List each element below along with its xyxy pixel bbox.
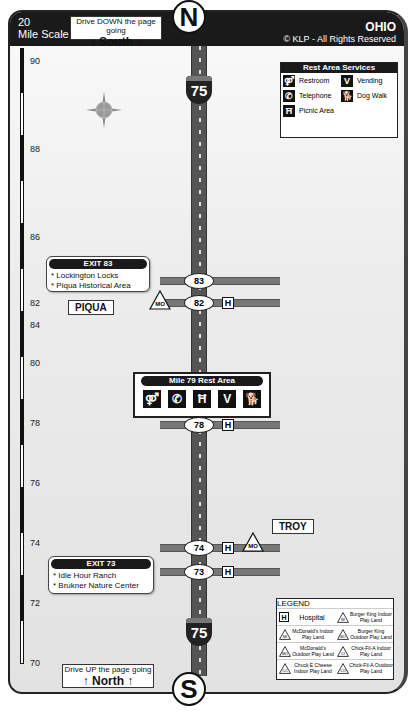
legend-item: HHospital bbox=[277, 608, 335, 625]
service-dog-walk: 🐕Dog Walk bbox=[339, 88, 397, 103]
scale-segment bbox=[20, 180, 24, 224]
legend-label: Hospital bbox=[289, 614, 335, 621]
scale-segment bbox=[20, 48, 24, 92]
scale-label: 20 Mile Scale bbox=[18, 16, 69, 40]
playland-triangle-icon: CC bbox=[279, 663, 291, 674]
picnic-icon: Ħ bbox=[283, 105, 295, 117]
rest-area-services-panel: Rest Area Services ⚤Restroom VVending ✆T… bbox=[280, 62, 398, 138]
svg-text:MO: MO bbox=[282, 651, 288, 655]
drive-up-box: Drive UP the page going ↑ North ↑ bbox=[62, 664, 154, 688]
service-label: Restroom bbox=[299, 77, 329, 84]
exit-road bbox=[160, 568, 280, 576]
legend-item: MIMcDonald's Indoor Play Land bbox=[277, 625, 335, 642]
route-map-card: 20 Mile Scale Drive DOWN the page going … bbox=[8, 10, 408, 694]
scale-segment bbox=[20, 400, 24, 444]
svg-text:MO: MO bbox=[248, 543, 258, 549]
hospital-icon: H bbox=[222, 297, 234, 309]
svg-text:MI: MI bbox=[283, 634, 287, 638]
scale-segment bbox=[20, 92, 24, 136]
scale-segment bbox=[20, 356, 24, 400]
mile-label: 72 bbox=[30, 598, 40, 608]
mile-label: 76 bbox=[30, 478, 40, 488]
mile-scale-bar bbox=[20, 48, 24, 678]
legend-label: McDonald's Indoor Play Land bbox=[291, 628, 335, 640]
mile-label: 86 bbox=[30, 232, 40, 242]
drive-down-box: Drive DOWN the page going ↓ South ↓ bbox=[70, 16, 162, 40]
mile-label: 78 bbox=[30, 418, 40, 428]
town-troy: TROY bbox=[272, 519, 314, 534]
service-label: Vending bbox=[357, 77, 382, 84]
telephone-icon: ✆ bbox=[168, 390, 186, 408]
rest-area-title: Mile 79 Rest Area bbox=[141, 376, 263, 386]
exit-marker: 78 bbox=[184, 417, 214, 433]
legend-item: BIBurger King Indoor Play Land bbox=[335, 608, 393, 625]
service-vending: VVending bbox=[339, 73, 397, 88]
svg-text:CC: CC bbox=[282, 668, 288, 672]
legend-item: CIChick-Fil-A Indoor Play Land bbox=[335, 642, 393, 659]
mile-label: 80 bbox=[30, 358, 40, 368]
service-restroom: ⚤Restroom bbox=[281, 73, 339, 88]
exit-card-item: * Piqua Historical Area bbox=[47, 281, 149, 291]
playland-triangle-icon: MO bbox=[279, 646, 291, 657]
scale-text: Mile Scale bbox=[18, 28, 69, 40]
vending-icon: V bbox=[341, 75, 353, 87]
mile-label: 70 bbox=[30, 658, 40, 668]
exit-road bbox=[160, 299, 280, 307]
mile-label: 90 bbox=[30, 56, 40, 66]
legend-label: McDonald's Outdoor Play Land bbox=[291, 645, 335, 657]
svg-text:CO: CO bbox=[340, 668, 346, 672]
interstate-shield-icon: 75 bbox=[186, 618, 212, 646]
legend-item: COChick-Fil-A Outdoor Play Land bbox=[335, 659, 393, 676]
service-label: Telephone bbox=[299, 92, 331, 99]
mcdonalds-outdoor-playland-icon: MO bbox=[242, 532, 264, 552]
panel-title: Rest Area Services bbox=[281, 63, 397, 73]
legend-item: CCChuck E Cheese Indoor Play Land bbox=[277, 659, 335, 676]
state-info: OHIO © KLP - All Rights Reserved bbox=[283, 20, 396, 44]
svg-text:CI: CI bbox=[341, 651, 345, 655]
interstate-75 bbox=[191, 46, 207, 676]
lane-divider bbox=[199, 46, 201, 676]
legend-item: MOMcDonald's Outdoor Play Land bbox=[277, 642, 335, 659]
exit-card-title: EXIT 73 bbox=[51, 559, 151, 569]
scale-segment bbox=[20, 312, 24, 356]
mile-label: 88 bbox=[30, 144, 40, 154]
exit-card-title: EXIT 83 bbox=[49, 259, 147, 269]
restroom-icon: ⚤ bbox=[143, 390, 161, 408]
north-direction: ↑ North ↑ bbox=[63, 674, 153, 688]
interstate-shield-icon: 75 bbox=[186, 76, 212, 104]
legend-label: Chick-Fil-A Indoor Play Land bbox=[349, 645, 393, 657]
exit-card-item: * Idle Hour Ranch bbox=[49, 571, 153, 581]
exit-road bbox=[160, 421, 280, 429]
legend-label: Chick-Fil-A Outdoor Play Land bbox=[349, 662, 393, 674]
service-label: Dog Walk bbox=[357, 92, 387, 99]
south-marker: S bbox=[172, 672, 206, 706]
town-piqua: PIQUA bbox=[68, 300, 114, 315]
svg-text:MO: MO bbox=[155, 301, 165, 307]
dog-walk-icon: 🐕 bbox=[243, 390, 261, 408]
restroom-icon: ⚤ bbox=[283, 75, 295, 87]
exit-card-item: * Lockington Locks bbox=[47, 271, 149, 281]
hospital-icon: H bbox=[279, 612, 289, 622]
exit-road bbox=[160, 277, 280, 285]
svg-text:BO: BO bbox=[340, 634, 346, 638]
hospital-icon: H bbox=[222, 566, 234, 578]
legend-label: Chuck E Cheese Indoor Play Land bbox=[291, 662, 335, 674]
playland-triangle-icon: BO bbox=[337, 629, 349, 640]
legend-label: Burger King Indoor Play Land bbox=[349, 611, 393, 623]
svg-text:BI: BI bbox=[341, 617, 345, 621]
mile-79-rest-area: Mile 79 Rest Area ⚤ ✆ Ħ V 🐕 bbox=[133, 372, 271, 418]
scale-segment bbox=[20, 532, 24, 576]
scale-segment bbox=[20, 576, 24, 620]
playland-triangle-icon: CI bbox=[337, 646, 349, 657]
legend-label: Burger King Outdoor Play Land bbox=[349, 628, 393, 640]
state-name: OHIO bbox=[283, 20, 396, 34]
vending-icon: V bbox=[218, 390, 236, 408]
scale-segment bbox=[20, 136, 24, 180]
scale-segment bbox=[20, 268, 24, 312]
scale-segment bbox=[20, 444, 24, 488]
hospital-icon: H bbox=[222, 419, 234, 431]
exit-83-info-card: EXIT 83 * Lockington Locks * Piqua Histo… bbox=[46, 256, 150, 292]
dog-walk-icon: 🐕 bbox=[341, 90, 353, 102]
hospital-icon: H bbox=[222, 542, 234, 554]
exit-marker: 83 bbox=[184, 273, 214, 289]
